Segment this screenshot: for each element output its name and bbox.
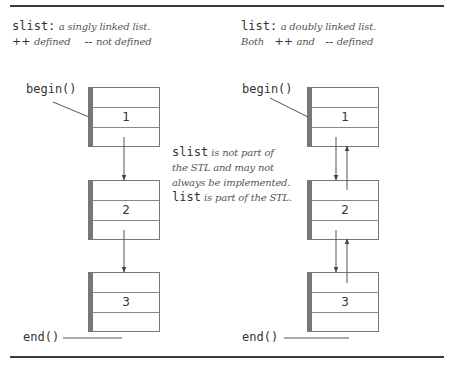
- slist-begin-pointer-line: [53, 102, 89, 117]
- connector-layer: [0, 0, 452, 368]
- list-begin-pointer-line: [270, 98, 308, 117]
